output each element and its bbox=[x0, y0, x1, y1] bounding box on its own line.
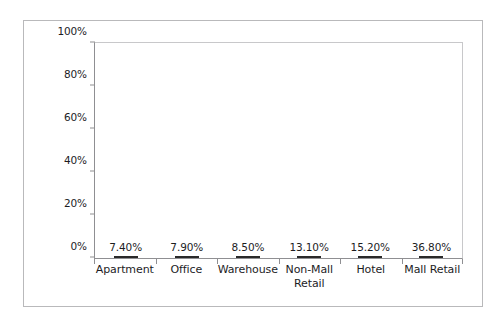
bar-chart: 0%20%40%60%80%100% 7.40%7.90%8.50%13.10%… bbox=[0, 0, 502, 327]
y-axis-tick-label: 80% bbox=[64, 68, 87, 80]
bar[interactable] bbox=[419, 256, 443, 258]
bar-value-label: 7.40% bbox=[109, 241, 142, 253]
bar-slot: 36.80% bbox=[401, 43, 462, 258]
y-axis-tick-label: 60% bbox=[64, 111, 87, 123]
y-axis-tick-label: 40% bbox=[64, 154, 87, 166]
x-axis-category-label-line: Apartment bbox=[94, 263, 156, 277]
bar[interactable] bbox=[236, 256, 260, 258]
bar-slot: 7.90% bbox=[156, 43, 217, 258]
bar-column: 13.10% bbox=[297, 256, 321, 258]
bar-column: 8.50% bbox=[236, 256, 260, 258]
x-axis-category-label: Office bbox=[156, 263, 218, 290]
bar-slot: 13.10% bbox=[279, 43, 340, 258]
bar[interactable] bbox=[358, 256, 382, 258]
x-axis-category-label: Mall Retail bbox=[402, 263, 464, 290]
bar-value-label: 7.90% bbox=[170, 241, 203, 253]
bar[interactable] bbox=[175, 256, 199, 258]
x-axis-category-label-line: Mall Retail bbox=[402, 263, 464, 277]
bar-column: 36.80% bbox=[419, 256, 443, 258]
bar-column: 7.40% bbox=[114, 256, 138, 258]
x-axis-category-label: Warehouse bbox=[217, 263, 279, 290]
bar-value-label: 15.20% bbox=[351, 241, 390, 253]
x-axis-category-label-line: Hotel bbox=[340, 263, 402, 277]
bar-column: 15.20% bbox=[358, 256, 382, 258]
bar-slot: 15.20% bbox=[340, 43, 401, 258]
bar-slot: 8.50% bbox=[217, 43, 278, 258]
bar[interactable] bbox=[114, 256, 138, 258]
plot-area: 0%20%40%60%80%100% 7.40%7.90%8.50%13.10%… bbox=[94, 42, 463, 259]
bars-layer: 7.40%7.90%8.50%13.10%15.20%36.80% bbox=[95, 43, 462, 258]
bar-slot: 7.40% bbox=[95, 43, 156, 258]
x-axis-category-label: Non-MallRetail bbox=[279, 263, 341, 290]
bar[interactable] bbox=[297, 256, 321, 258]
x-axis-category-label-line: Non-Mall bbox=[279, 263, 341, 277]
bar-value-label: 8.50% bbox=[231, 241, 264, 253]
x-axis-category-label-line: Retail bbox=[279, 277, 341, 291]
bar-value-label: 13.10% bbox=[289, 241, 328, 253]
bar-column: 7.90% bbox=[175, 256, 199, 258]
bar-value-label: 36.80% bbox=[412, 241, 451, 253]
x-axis-category-label: Hotel bbox=[340, 263, 402, 290]
y-axis-tick-label: 0% bbox=[71, 240, 87, 252]
y-axis-tick-label: 100% bbox=[57, 25, 87, 37]
y-axis-tick-label: 20% bbox=[64, 197, 87, 209]
x-axis-labels: ApartmentOfficeWarehouseNon-MallRetailHo… bbox=[94, 263, 463, 290]
x-axis-category-label: Apartment bbox=[94, 263, 156, 290]
x-axis-category-label-line: Office bbox=[156, 263, 218, 277]
x-axis-category-label-line: Warehouse bbox=[217, 263, 279, 277]
